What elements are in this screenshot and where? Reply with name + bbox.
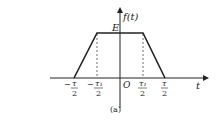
tick-neg-tau-half: − τ 2 <box>64 79 78 98</box>
svg-text:2: 2 <box>162 89 167 98</box>
svg-text:−: − <box>64 80 71 89</box>
svg-text:2: 2 <box>72 89 77 98</box>
trapezoid-pulse-diagram: f(t) E t O − τ 2 − τ₁ 2 τ₁ 2 τ 2 (a) <box>0 0 218 123</box>
figure-caption: (a) <box>110 105 121 114</box>
amplitude-label: E <box>111 22 120 33</box>
tick-neg-tau1-half: − τ₁ 2 <box>87 79 103 98</box>
svg-text:2: 2 <box>140 89 145 98</box>
svg-text:τ₁: τ₁ <box>95 79 103 88</box>
y-axis-label: f(t) <box>122 11 139 22</box>
svg-text:τ₁: τ₁ <box>139 79 147 88</box>
tick-tau1-half: τ₁ 2 <box>138 79 147 98</box>
svg-text:−: − <box>87 80 94 89</box>
x-axis-label: t <box>196 80 201 91</box>
origin-label: O <box>123 80 131 90</box>
svg-text:τ: τ <box>162 79 167 88</box>
svg-text:τ: τ <box>72 79 77 88</box>
tick-tau-half: τ 2 <box>161 79 168 98</box>
svg-text:2: 2 <box>96 89 101 98</box>
